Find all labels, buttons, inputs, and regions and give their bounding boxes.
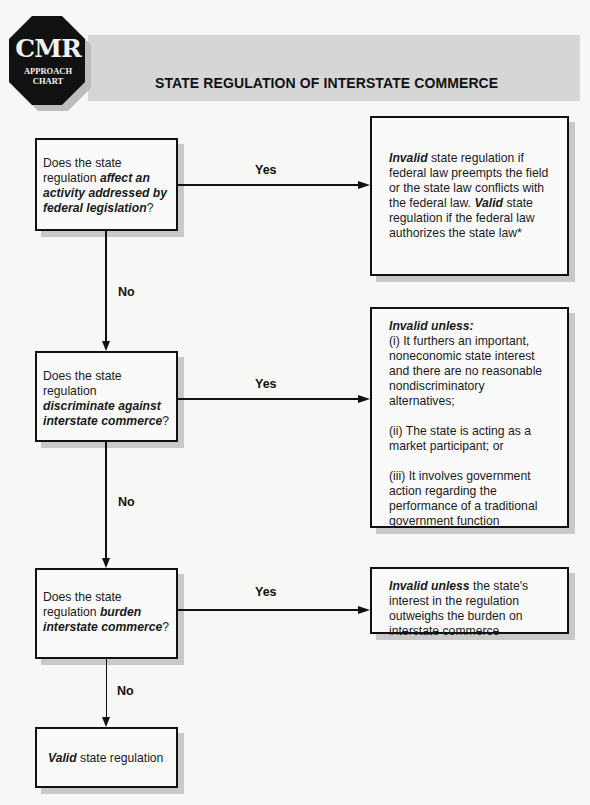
- question-emphasis: discriminate against interstate commerce: [43, 399, 162, 428]
- question-mark: ?: [162, 620, 169, 634]
- arrow-right-icon: [358, 395, 370, 403]
- header-band: [88, 35, 580, 101]
- page-title: STATE REGULATION OF INTERSTATE COMMERCE: [155, 75, 498, 91]
- result-box-preemption: Invalid state regulation if federal law …: [370, 116, 569, 276]
- yes-label-3: Yes: [255, 585, 277, 599]
- question-box-discriminate: Does the state regulation discriminate a…: [35, 351, 178, 442]
- logo-chart-text: CHART: [7, 76, 89, 86]
- no-connector-2: [105, 442, 107, 558]
- result-box-discrimination: Invalid unless: (i) It furthers an impor…: [370, 307, 569, 528]
- invalid-unless-heading: Invalid unless:: [389, 319, 553, 334]
- cmr-logo: CMR APPROACH CHART: [5, 14, 95, 119]
- yes-connector-1: [178, 184, 358, 186]
- arrow-right-icon: [358, 181, 370, 189]
- result-box-burden: Invalid unless the state's interest in t…: [370, 567, 569, 634]
- result-box-valid: Valid state regulation: [35, 727, 178, 788]
- exception-item: (ii) The state is acting as a market par…: [389, 424, 553, 454]
- exception-item: (i) It furthers an important, noneconomi…: [389, 334, 553, 409]
- question-box-federal: Does the state regulation affect an acti…: [35, 138, 178, 231]
- logo-approach-text: APPROACH: [7, 66, 89, 76]
- arrow-down-icon: [102, 341, 110, 351]
- invalid-emphasis: Invalid: [389, 151, 428, 165]
- result-text: state regulation: [77, 751, 164, 765]
- no-label-3: No: [117, 684, 134, 698]
- question-text: Does the state regulation: [43, 369, 122, 398]
- arrow-down-icon: [102, 717, 110, 727]
- invalid-unless-emphasis: Invalid unless: [389, 579, 470, 593]
- valid-emphasis: Valid: [48, 751, 77, 765]
- no-label-2: No: [118, 495, 135, 509]
- exception-item: (iii) It involves government action rega…: [389, 469, 553, 529]
- valid-emphasis: Valid: [474, 196, 503, 210]
- question-mark: ?: [147, 201, 154, 215]
- logo-cmr-text: CMR: [7, 34, 89, 63]
- yes-label-1: Yes: [255, 163, 277, 177]
- yes-connector-3: [178, 609, 358, 611]
- no-connector-1: [105, 231, 107, 341]
- yes-connector-2: [178, 398, 358, 400]
- yes-label-2: Yes: [255, 377, 277, 391]
- arrow-down-icon: [102, 558, 110, 568]
- question-box-burden: Does the state regulation burden interst…: [35, 568, 178, 659]
- arrow-right-icon: [358, 606, 370, 614]
- question-mark: ?: [162, 414, 169, 428]
- no-connector-3: [106, 659, 107, 717]
- no-label-1: No: [118, 285, 135, 299]
